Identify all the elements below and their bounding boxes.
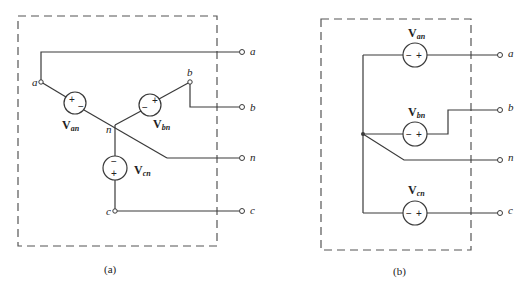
panel-b-wires bbox=[363, 55, 498, 213]
source-vbn-a: − + Vbn bbox=[139, 94, 171, 132]
terminal-label-n: n bbox=[250, 151, 256, 163]
caption-a: (a) bbox=[104, 263, 117, 276]
plus-sign: + bbox=[111, 168, 117, 179]
plus-sign: + bbox=[152, 95, 158, 106]
terminal-label-a: a bbox=[508, 47, 514, 59]
label-vcn: Vcn bbox=[408, 183, 425, 198]
node-label-c: c bbox=[106, 205, 111, 217]
caption-b: (b) bbox=[393, 265, 406, 278]
terminal-c bbox=[240, 209, 245, 214]
terminal-c bbox=[498, 211, 503, 216]
source-van-b: − + Van bbox=[403, 26, 427, 67]
terminal-a bbox=[498, 53, 503, 58]
terminal-n bbox=[240, 156, 245, 161]
panel-b: − + Van − + Vbn − + Vcn a b n c (b) bbox=[321, 19, 514, 278]
minus-sign: − bbox=[142, 102, 148, 113]
terminal-b bbox=[498, 108, 503, 113]
node-label-n: n bbox=[106, 123, 112, 135]
source-vcn-a: − + Vcn bbox=[103, 156, 151, 180]
label-vbn: Vbn bbox=[153, 117, 171, 132]
plus-sign: + bbox=[416, 129, 422, 140]
minus-sign: − bbox=[111, 156, 117, 167]
node-b-internal bbox=[188, 80, 192, 84]
terminal-label-b: b bbox=[250, 101, 256, 113]
terminal-label-n: n bbox=[508, 151, 514, 163]
terminal-n bbox=[498, 158, 503, 163]
minus-sign: − bbox=[406, 50, 412, 61]
neutral-junction-dot bbox=[361, 132, 365, 136]
terminal-label-c: c bbox=[250, 204, 255, 216]
terminal-label-c: c bbox=[508, 204, 513, 216]
minus-sign: − bbox=[406, 129, 412, 140]
terminal-label-a: a bbox=[250, 45, 256, 57]
plus-sign: + bbox=[416, 208, 422, 219]
minus-sign: − bbox=[406, 208, 412, 219]
terminal-b bbox=[240, 105, 245, 110]
source-vcn-b: − + Vcn bbox=[403, 183, 427, 225]
plus-sign: + bbox=[69, 94, 75, 105]
label-vbn: Vbn bbox=[408, 105, 426, 120]
plus-sign: + bbox=[416, 50, 422, 61]
source-vbn-b: − + Vbn bbox=[403, 105, 427, 146]
node-a-internal bbox=[39, 80, 43, 84]
node-label-a: a bbox=[32, 76, 38, 88]
label-van: Van bbox=[62, 118, 80, 133]
node-c-internal bbox=[113, 209, 117, 213]
terminal-label-b: b bbox=[508, 101, 514, 113]
panel-a: + − Van − + Vbn − + Vcn a b n c a b bbox=[18, 16, 256, 276]
source-van-a: + − Van bbox=[62, 92, 86, 133]
node-label-b: b bbox=[187, 66, 193, 78]
label-vcn: Vcn bbox=[134, 163, 151, 178]
minus-sign: − bbox=[78, 101, 84, 112]
terminal-a bbox=[240, 50, 245, 55]
label-van: Van bbox=[408, 26, 426, 41]
